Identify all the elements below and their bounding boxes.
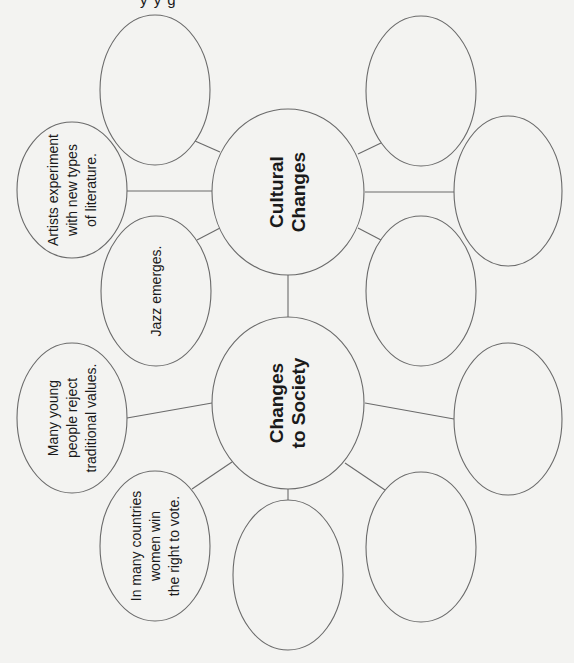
blank-node-c5[interactable]	[454, 116, 562, 266]
blank-node-c4[interactable]	[366, 16, 476, 166]
connector-line	[365, 403, 454, 419]
node-label-s2: In many countries women win the right to…	[105, 478, 205, 614]
blank-node-s5[interactable]	[454, 343, 562, 495]
blank-node-s4[interactable]	[366, 472, 476, 622]
connector-line	[358, 143, 381, 154]
node-label-c3: Jazz emerges.	[106, 223, 206, 359]
connector-line	[127, 403, 212, 418]
blank-node-c6[interactable]	[366, 216, 476, 366]
node-label-s1: Many young people reject traditional val…	[22, 350, 122, 486]
node-label-society: Changes to Society	[217, 324, 359, 482]
node-label-cultural: Cultural Changes	[217, 116, 359, 268]
connector-line	[358, 228, 381, 240]
blank-node-s3[interactable]	[233, 500, 343, 650]
